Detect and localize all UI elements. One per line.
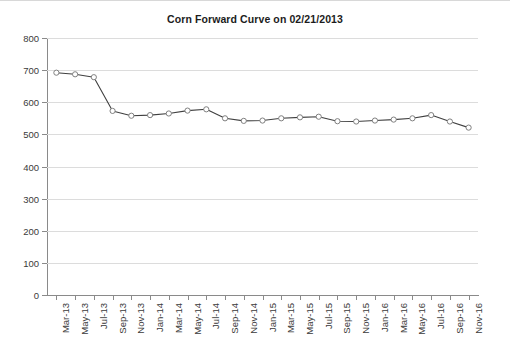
gridline — [47, 263, 478, 264]
x-axis-tick — [169, 295, 170, 300]
x-axis-tick — [431, 295, 432, 300]
gridline — [47, 38, 478, 39]
y-axis-label: 500 — [23, 129, 39, 140]
y-axis-label: 0 — [34, 290, 39, 301]
x-axis-label: Mar-14 — [173, 303, 184, 333]
x-axis-label: Jan-15 — [267, 303, 278, 332]
y-axis-label: 800 — [23, 33, 39, 44]
y-axis-tick — [42, 167, 47, 168]
x-axis-tick — [450, 295, 451, 300]
x-axis-label: Sep-16 — [454, 303, 465, 334]
x-axis-label: Mar-13 — [60, 303, 71, 333]
y-axis-tick — [42, 199, 47, 200]
y-axis-tick — [42, 134, 47, 135]
x-axis-label: Sep-14 — [229, 303, 240, 334]
x-axis-label: May-15 — [304, 303, 315, 335]
gridline — [47, 102, 478, 103]
x-axis-label: Sep-15 — [341, 303, 352, 334]
x-axis-tick — [300, 295, 301, 300]
gridline — [47, 231, 478, 232]
x-axis-tick — [244, 295, 245, 300]
chart-title: Corn Forward Curve on 02/21/2013 — [0, 13, 510, 25]
y-axis-label: 400 — [23, 161, 39, 172]
x-axis-label: May-14 — [192, 303, 203, 335]
x-axis-tick — [206, 295, 207, 300]
x-axis-tick — [281, 295, 282, 300]
y-axis-tick — [42, 231, 47, 232]
x-axis-tick — [394, 295, 395, 300]
x-axis-label: Jan-16 — [379, 303, 390, 332]
x-axis-tick — [56, 295, 57, 300]
x-axis-tick — [412, 295, 413, 300]
y-axis-tick — [42, 38, 47, 39]
x-axis-label: Nov-15 — [360, 303, 371, 334]
x-axis-label: Mar-16 — [398, 303, 409, 333]
gridline — [47, 70, 478, 71]
x-axis-tick — [75, 295, 76, 300]
y-axis-tick — [42, 263, 47, 264]
y-axis-tick — [42, 102, 47, 103]
y-axis-label: 200 — [23, 225, 39, 236]
x-axis-tick — [188, 295, 189, 300]
x-axis-tick — [356, 295, 357, 300]
x-axis-label: Jul-16 — [435, 303, 446, 329]
x-axis-tick — [469, 295, 470, 300]
x-axis-label: Sep-13 — [117, 303, 128, 334]
y-axis-label: 100 — [23, 257, 39, 268]
chart-screenshot: Corn Forward Curve on 02/21/2013 0100200… — [0, 0, 510, 353]
x-axis-tick — [337, 295, 338, 300]
x-axis-tick — [263, 295, 264, 300]
x-axis-tick — [225, 295, 226, 300]
y-axis-tick — [42, 295, 47, 296]
x-axis-label: Nov-13 — [135, 303, 146, 334]
x-axis-tick — [113, 295, 114, 300]
gridline — [47, 167, 478, 168]
x-axis-label: May-16 — [416, 303, 427, 335]
x-axis-tick — [131, 295, 132, 300]
y-axis-tick — [42, 70, 47, 71]
y-axis-label: 600 — [23, 97, 39, 108]
plot-area: 0100200300400500600700800 — [47, 38, 478, 295]
x-axis-label: Jul-15 — [323, 303, 334, 329]
x-axis-label: Mar-15 — [285, 303, 296, 333]
x-axis-label: May-13 — [79, 303, 90, 335]
y-axis-label: 300 — [23, 193, 39, 204]
x-axis-tick — [150, 295, 151, 300]
x-axis-label: Jan-14 — [154, 303, 165, 332]
x-axis-tick — [94, 295, 95, 300]
x-axis-label: Jul-13 — [98, 303, 109, 329]
gridline — [47, 199, 478, 200]
y-axis-label: 700 — [23, 65, 39, 76]
x-axis-label: Nov-14 — [248, 303, 259, 334]
x-axis-tick — [375, 295, 376, 300]
gridline — [47, 134, 478, 135]
x-axis-tick — [319, 295, 320, 300]
x-axis-label: Jul-14 — [210, 303, 221, 329]
x-axis-label: Nov-16 — [473, 303, 484, 334]
